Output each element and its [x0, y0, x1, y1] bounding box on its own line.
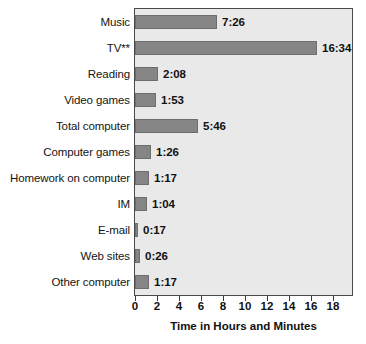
bar-row: Web sites0:26: [0, 243, 366, 269]
bar-row: Music7:26: [0, 9, 366, 35]
category-label: Video games: [0, 87, 130, 113]
axis-tick-label: 16: [305, 300, 318, 312]
bar-value-label: 2:08: [163, 61, 186, 87]
bar: [135, 249, 140, 263]
bar-row: Homework on computer1:17: [0, 165, 366, 191]
bar-value-label: 0:26: [145, 243, 168, 269]
bar-value-label: 1:17: [154, 165, 177, 191]
bar-value-label: 1:26: [156, 139, 179, 165]
bar-value-label: 16:34: [322, 35, 351, 61]
axis-tick-label: 14: [283, 300, 296, 312]
category-label: IM: [0, 191, 130, 217]
category-label: Computer games: [0, 139, 130, 165]
bar-row: IM1:04: [0, 191, 366, 217]
bar-chart: Music7:26TV**16:34Reading2:08Video games…: [0, 0, 366, 344]
bar-row: TV**16:34: [0, 35, 366, 61]
bar: [135, 41, 317, 55]
bar: [135, 119, 198, 133]
category-label: TV**: [0, 35, 130, 61]
bar-value-label: 1:04: [152, 191, 175, 217]
bar-value-label: 1:17: [154, 269, 177, 295]
axis-tick-label: 18: [327, 300, 340, 312]
category-label: Web sites: [0, 243, 130, 269]
bar: [135, 197, 147, 211]
axis-tick-label: 8: [220, 300, 226, 312]
axis-tick-label: 4: [176, 300, 182, 312]
axis-tick-label: 2: [154, 300, 160, 312]
category-label: Total computer: [0, 113, 130, 139]
bar: [135, 93, 156, 107]
bar-row: Other computer1:17: [0, 269, 366, 295]
x-axis-title: Time in Hours and Minutes: [134, 320, 353, 332]
bar-row: Video games1:53: [0, 87, 366, 113]
category-label: Other computer: [0, 269, 130, 295]
bar-value-label: 7:26: [222, 9, 245, 35]
bar-row: Total computer5:46: [0, 113, 366, 139]
bar: [135, 171, 149, 185]
category-label: Homework on computer: [0, 165, 130, 191]
x-axis-tick-labels: 024681012141618: [0, 300, 366, 316]
axis-tick-label: 10: [239, 300, 252, 312]
bar-value-label: 5:46: [203, 113, 226, 139]
category-label: E-mail: [0, 217, 130, 243]
axis-tick-label: 12: [261, 300, 274, 312]
axis-tick-label: 6: [198, 300, 204, 312]
bar: [135, 275, 149, 289]
bar-row: Reading2:08: [0, 61, 366, 87]
bar-value-label: 1:53: [161, 87, 184, 113]
bar: [135, 223, 138, 237]
bar: [135, 145, 151, 159]
bar: [135, 15, 217, 29]
bar-row: Computer games1:26: [0, 139, 366, 165]
bar: [135, 67, 158, 81]
category-label: Music: [0, 9, 130, 35]
bar-row: E-mail0:17: [0, 217, 366, 243]
bar-value-label: 0:17: [143, 217, 166, 243]
category-label: Reading: [0, 61, 130, 87]
axis-tick-label: 0: [132, 300, 138, 312]
